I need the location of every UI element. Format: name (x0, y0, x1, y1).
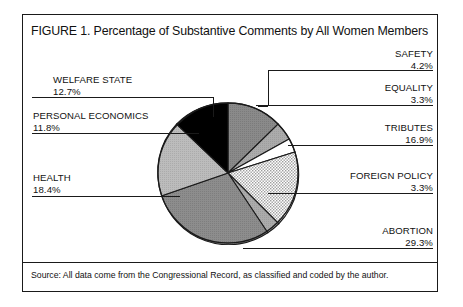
figure-title: FIGURE 1. Percentage of Substantive Comm… (31, 20, 431, 42)
leader-line-personal-economics (32, 133, 199, 134)
callout-abortion-value: 29.3% (313, 237, 433, 249)
leader-line-equality (256, 105, 433, 106)
figure-container: FIGURE 1. Percentage of Substantive Comm… (0, 0, 463, 307)
callout-welfare-state-label: WELFARE STATE (53, 74, 233, 86)
callout-personal-economics-label: PERSONAL ECONOMICS (33, 110, 223, 122)
callout-tributes-label: TRIBUTES (313, 122, 433, 134)
callout-equality-value: 3.3% (313, 94, 433, 106)
source-divider (23, 262, 437, 263)
source-note: Source: All data come from the Congressi… (31, 266, 433, 284)
callout-tributes-value: 16.9% (313, 134, 433, 146)
callout-equality-label: EQUALITY (313, 82, 433, 94)
callout-health-label: HEALTH (33, 172, 183, 184)
callout-safety: SAFETY 4.2% (313, 48, 433, 71)
callout-tributes: TRIBUTES 16.9% (313, 122, 433, 145)
callout-safety-value: 4.2% (313, 60, 433, 72)
callout-foreign-policy-value: 3.3% (303, 182, 433, 194)
callout-welfare-state: WELFARE STATE 12.7% (53, 74, 233, 97)
callout-foreign-policy: FOREIGN POLICY 3.3% (303, 170, 433, 193)
callout-personal-economics-value: 11.8% (33, 122, 223, 134)
callout-health: HEALTH 18.4% (33, 172, 183, 195)
callout-foreign-policy-label: FOREIGN POLICY (303, 170, 433, 182)
callout-welfare-state-value: 12.7% (53, 86, 233, 98)
callout-health-value: 18.4% (33, 184, 183, 196)
callout-abortion: ABORTION 29.3% (313, 225, 433, 248)
leader-line-foreign-policy (268, 193, 433, 194)
callout-personal-economics: PERSONAL ECONOMICS 11.8% (33, 110, 223, 133)
callout-safety-label: SAFETY (313, 48, 433, 60)
leader-line-abortion (243, 248, 433, 249)
callout-equality: EQUALITY 3.3% (313, 82, 433, 105)
callout-abortion-label: ABORTION (313, 225, 433, 237)
leader-line-tributes (288, 145, 433, 146)
leader-line-health (32, 196, 180, 197)
